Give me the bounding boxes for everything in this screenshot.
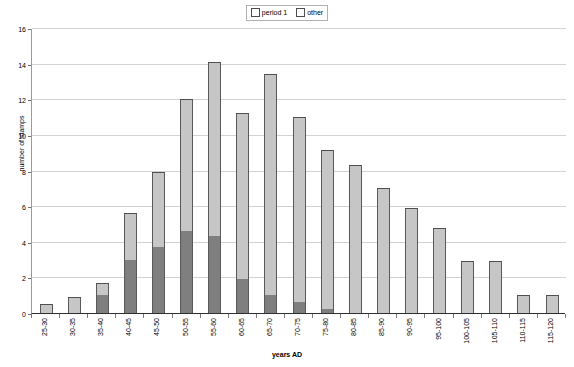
bar-stack[interactable] xyxy=(433,228,446,314)
x-tick-mark xyxy=(565,314,566,318)
bar-segment-other xyxy=(208,62,221,236)
bar-stack[interactable] xyxy=(180,99,193,313)
x-tick-label: 115-120 xyxy=(547,318,555,343)
bar-stack[interactable] xyxy=(461,261,474,313)
bar-slot xyxy=(426,28,454,313)
x-label-slot: 115-120 xyxy=(537,318,565,350)
bar-slot xyxy=(285,28,313,313)
bar-stack[interactable] xyxy=(124,213,137,313)
x-tick-label: 110-115 xyxy=(519,318,527,343)
bar-stack[interactable] xyxy=(40,304,53,313)
legend-box: period 1 other xyxy=(246,5,328,21)
x-tick-label: 100-105 xyxy=(463,318,471,344)
bar-stack[interactable] xyxy=(152,172,165,313)
x-label-slot: 30-35 xyxy=(59,318,87,350)
bar-segment-other xyxy=(236,113,249,280)
bar-slot xyxy=(313,28,341,313)
bar-slot xyxy=(88,28,116,313)
x-label-slot: 105-110 xyxy=(481,318,509,350)
bar-segment-other xyxy=(349,165,362,313)
x-label-slot: 50-55 xyxy=(172,318,200,350)
bar-segment-other xyxy=(96,283,109,295)
bar-series-container xyxy=(32,28,566,313)
x-tick-label: 95-100 xyxy=(435,318,443,340)
bar-segment-period-1 xyxy=(264,295,277,313)
bar-stack[interactable] xyxy=(546,295,559,313)
y-tick-label: 6 xyxy=(22,204,26,211)
legend-swatch-other xyxy=(296,8,305,17)
bar-segment-other xyxy=(321,150,334,309)
x-tick-label: 50-55 xyxy=(182,318,190,336)
x-tick-label: 70-75 xyxy=(294,318,302,336)
bar-segment-period-1 xyxy=(236,279,249,313)
bar-slot xyxy=(538,28,566,313)
bar-stack[interactable] xyxy=(68,297,81,313)
bar-stack[interactable] xyxy=(208,62,221,313)
x-tick-label: 40-45 xyxy=(125,318,133,336)
x-tick-label: 55-60 xyxy=(210,318,218,336)
bar-stack[interactable] xyxy=(96,283,109,313)
bar-stack[interactable] xyxy=(236,113,249,313)
bar-segment-other xyxy=(264,74,277,295)
bar-segment-period-1 xyxy=(124,260,137,313)
bar-slot xyxy=(341,28,369,313)
bar-segment-other xyxy=(124,213,137,259)
bar-segment-other xyxy=(546,295,559,313)
x-label-slot: 100-105 xyxy=(453,318,481,350)
bar-stack[interactable] xyxy=(377,188,390,313)
bar-stack[interactable] xyxy=(349,165,362,313)
legend-item-other: other xyxy=(296,8,323,17)
bar-stack[interactable] xyxy=(405,208,418,313)
x-label-slot: 70-75 xyxy=(284,318,312,350)
bar-segment-period-1 xyxy=(180,231,193,313)
x-tick-label: 30-35 xyxy=(69,318,77,336)
x-tick-label: 25-30 xyxy=(41,318,49,336)
bar-segment-period-1 xyxy=(96,295,109,313)
bar-stack[interactable] xyxy=(517,295,530,313)
bar-slot xyxy=(201,28,229,313)
x-tick-label: 45-50 xyxy=(153,318,161,336)
bar-segment-other xyxy=(40,304,53,313)
x-label-slot: 40-45 xyxy=(115,318,143,350)
x-tick-label: 35-40 xyxy=(97,318,105,336)
legend-swatch-period-1 xyxy=(251,8,260,17)
bar-stack[interactable] xyxy=(293,117,306,313)
bar-segment-other xyxy=(405,208,418,313)
bar-segment-period-1 xyxy=(152,247,165,313)
bar-segment-other xyxy=(433,228,446,314)
bar-slot xyxy=(257,28,285,313)
x-tick-label: 80-85 xyxy=(350,318,358,336)
x-tick-label: 105-110 xyxy=(491,318,499,343)
x-tick-label: 75-80 xyxy=(322,318,330,336)
x-label-slot: 75-80 xyxy=(312,318,340,350)
y-tick-label: 14 xyxy=(18,62,26,69)
x-tick-label: 65-70 xyxy=(266,318,274,336)
bar-stack[interactable] xyxy=(264,74,277,313)
bar-segment-period-1 xyxy=(208,236,221,313)
bar-slot xyxy=(116,28,144,313)
bar-segment-period-1 xyxy=(293,302,306,313)
bar-slot xyxy=(510,28,538,313)
legend-label-other: other xyxy=(307,9,323,16)
y-tick-label: 0 xyxy=(22,311,26,318)
x-label-slot: 45-50 xyxy=(143,318,171,350)
bar-slot xyxy=(60,28,88,313)
bar-segment-other xyxy=(180,99,193,231)
bar-segment-other xyxy=(517,295,530,313)
plot-area xyxy=(31,29,565,314)
x-label-slot: 110-115 xyxy=(509,318,537,350)
x-axis-title: years AD xyxy=(0,351,574,358)
bar-segment-other xyxy=(377,188,390,313)
bar-slot xyxy=(397,28,425,313)
bar-stack[interactable] xyxy=(321,150,334,313)
x-label-slot: 65-70 xyxy=(256,318,284,350)
x-label-slot: 25-30 xyxy=(31,318,59,350)
y-tick-label: 4 xyxy=(22,240,26,247)
bar-segment-period-1 xyxy=(321,309,334,313)
x-label-slot: 55-60 xyxy=(200,318,228,350)
bar-slot xyxy=(369,28,397,313)
x-label-slot: 80-85 xyxy=(340,318,368,350)
bar-stack[interactable] xyxy=(489,261,502,313)
x-label-slot: 60-65 xyxy=(228,318,256,350)
bar-slot xyxy=(173,28,201,313)
